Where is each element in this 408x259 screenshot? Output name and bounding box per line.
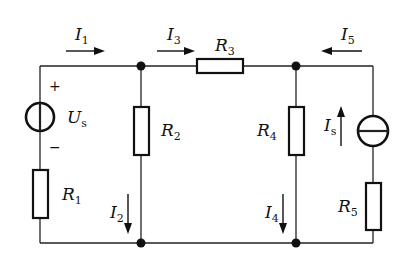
label-r4: R4: [256, 120, 277, 143]
node-top-left: [137, 62, 146, 71]
arrow-down-icon: [124, 223, 132, 234]
node-bottom-right: [292, 239, 301, 248]
minus-sign: −: [49, 139, 61, 155]
circuit-diagram: + − Us R1 R2 R3 R4 Is: [0, 0, 408, 259]
label-i1: I1: [74, 24, 89, 47]
current-i5: I5: [321, 24, 362, 55]
label-i3: I3: [166, 24, 181, 47]
arrow-down-icon: [279, 223, 287, 234]
resistor-r4-body: [289, 107, 304, 155]
current-i1: I1: [66, 24, 105, 55]
current-i4: I4: [264, 194, 287, 234]
wires: [40, 66, 373, 243]
resistor-r5: R5: [337, 183, 381, 230]
label-r2: R2: [160, 120, 181, 143]
current-i2: I2: [109, 194, 132, 234]
arrow-right-icon: [94, 47, 105, 55]
plus-sign: +: [49, 78, 61, 94]
label-i2: I2: [109, 202, 124, 225]
resistor-r3-body: [197, 59, 243, 73]
resistor-r2: R2: [134, 107, 181, 155]
node-bottom-left: [137, 239, 146, 248]
resistor-r5-body: [366, 183, 381, 230]
label-us: Us: [67, 107, 87, 130]
resistor-r1: R1: [33, 170, 82, 218]
resistor-r3: R3: [197, 35, 243, 73]
node-top-right: [292, 62, 301, 71]
arrow-up-icon: [337, 106, 345, 117]
resistor-r4: R4: [256, 107, 304, 155]
current-source-is: Is: [323, 106, 388, 146]
resistor-r2-body: [134, 107, 149, 155]
arrow-left-icon: [321, 47, 332, 55]
label-r1: R1: [61, 184, 82, 207]
resistor-r1-body: [33, 170, 48, 218]
arrow-right-icon: [184, 47, 195, 55]
label-r5: R5: [337, 196, 358, 219]
voltage-source-us: + − Us: [26, 78, 87, 155]
label-r3: R3: [214, 35, 235, 58]
label-i4: I4: [264, 202, 279, 225]
current-i3: I3: [157, 24, 195, 55]
label-is: Is: [323, 115, 337, 138]
label-i5: I5: [340, 24, 355, 47]
